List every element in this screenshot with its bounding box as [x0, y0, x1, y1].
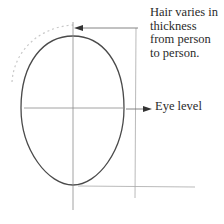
- head-oval: [21, 36, 124, 185]
- head-proportion-diagram: Hair varies in thickness from person to …: [0, 0, 224, 224]
- hair-note-line-3: from person: [150, 33, 224, 47]
- eye-level-label: Eye level: [155, 100, 202, 114]
- chin-baseline: [78, 186, 195, 187]
- hair-thickness-note: Hair varies in thickness from person to …: [150, 6, 224, 60]
- hair-note-line-4: to person.: [150, 47, 224, 61]
- right-vertical-guide: [135, 28, 136, 198]
- hair-outline: [12, 25, 73, 82]
- hair-arrowhead-icon: [74, 25, 83, 31]
- hair-note-line-2: thickness: [150, 20, 224, 34]
- eye-level-arrowhead-icon: [143, 106, 152, 112]
- hair-note-line-1: Hair varies in: [150, 6, 224, 20]
